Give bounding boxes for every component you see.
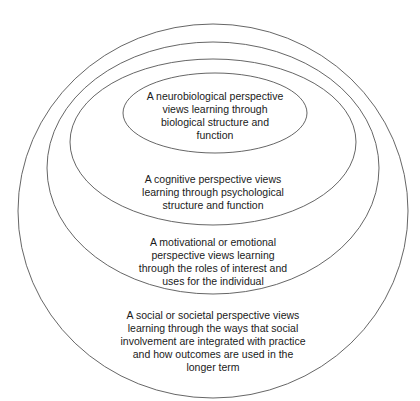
neurobiological-label: A neurobiological perspective views lear…: [147, 90, 284, 142]
label-line: and how outcomes are used in the: [120, 348, 305, 361]
label-line: views learning through: [147, 103, 284, 116]
motivational-label: A motivational or emotional perspective …: [139, 236, 287, 288]
label-line: learning through psychological: [142, 186, 284, 199]
label-line: uses for the individual: [139, 275, 287, 288]
label-line: A motivational or emotional: [139, 236, 287, 249]
label-line: longer term: [120, 361, 305, 374]
label-line: structure and function: [142, 199, 284, 212]
label-line: A social or societal perspective views: [120, 309, 305, 322]
label-line: function: [147, 129, 284, 142]
label-line: A neurobiological perspective: [147, 90, 284, 103]
label-line: perspective views learning: [139, 249, 287, 262]
label-line: A cognitive perspective views: [142, 173, 284, 186]
label-line: learning through the ways that social: [120, 322, 305, 335]
cognitive-label: A cognitive perspective views learning t…: [142, 173, 284, 212]
nested-perspectives-diagram: A neurobiological perspective views lear…: [0, 0, 420, 401]
label-line: involvement are integrated with practice: [120, 335, 305, 348]
social-label: A social or societal perspective views l…: [120, 309, 305, 374]
label-line: biological structure and: [147, 116, 284, 129]
label-line: through the roles of interest and: [139, 262, 287, 275]
